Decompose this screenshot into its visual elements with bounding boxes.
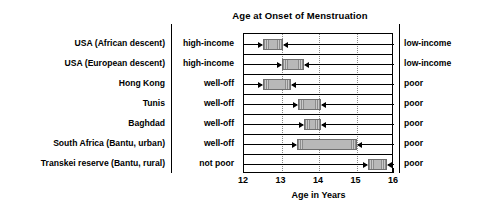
- category-label-0: USA (African descent): [0, 33, 171, 53]
- bar-hatch-left: [264, 40, 269, 49]
- x-tick-label-15: 15: [350, 175, 360, 185]
- chart-title: Age at Onset of Menstruation: [205, 10, 395, 21]
- bar-hatch-right: [315, 100, 320, 109]
- column-divider-left: [171, 24, 172, 173]
- row-separator-5: [244, 134, 392, 135]
- bar-hatch-left: [283, 60, 288, 69]
- arrowhead-right: [363, 162, 368, 168]
- bar-hatch-left: [369, 160, 374, 169]
- arrowhead-right: [299, 122, 304, 128]
- arrow-left-5: [244, 144, 296, 145]
- arrow-left-4: [244, 124, 303, 125]
- left-group-label-4: well-off: [176, 113, 238, 133]
- bar-4: [304, 119, 321, 130]
- category-label-3: Tunis: [0, 93, 171, 113]
- left-group-label-3: well-off: [176, 93, 238, 113]
- bar-2: [263, 79, 291, 90]
- left-group-label-column: high-incomehigh-incomewell-offwell-offwe…: [176, 33, 238, 173]
- bar-hatch-left: [299, 100, 304, 109]
- arrowhead-right: [292, 142, 297, 148]
- arrowhead-left: [321, 102, 326, 108]
- category-label-column: USA (African descent)USA (European desce…: [0, 33, 171, 173]
- category-label-6: Transkei reserve (Bantu, rural): [0, 153, 171, 173]
- x-tick-label-16: 16: [388, 175, 398, 185]
- category-label-2: Hong Kong: [0, 73, 171, 93]
- plot-area: [243, 33, 393, 173]
- arrow-left-2: [244, 84, 262, 85]
- row-separator-1: [244, 54, 392, 55]
- x-axis-label: Age in Years: [243, 190, 394, 200]
- x-tick-label-12: 12: [238, 175, 248, 185]
- bar-hatch-right: [315, 120, 320, 129]
- bar-hatch-left: [264, 80, 269, 89]
- arrowhead-right: [293, 102, 298, 108]
- row-separator-2: [244, 74, 392, 75]
- x-tick-label-14: 14: [313, 175, 323, 185]
- category-label-1: USA (European descent): [0, 53, 171, 73]
- right-group-label-2: poor: [404, 73, 488, 93]
- arrowhead-left: [321, 122, 326, 128]
- arrow-right-4: [322, 124, 394, 125]
- left-group-label-1: high-income: [176, 53, 238, 73]
- arrow-left-0: [244, 44, 262, 45]
- bar-hatch-right: [381, 160, 386, 169]
- arrowhead-right: [258, 42, 263, 48]
- x-axis-ticks: 1213141516: [0, 175, 488, 189]
- arrow-left-1: [244, 64, 281, 65]
- right-group-label-1: low-income: [404, 53, 488, 73]
- right-group-label-3: poor: [404, 93, 488, 113]
- arrow-left-6: [244, 164, 367, 165]
- bar-hatch-right: [277, 40, 282, 49]
- row-separator-4: [244, 114, 392, 115]
- bar-5: [297, 139, 357, 150]
- chart-container: Age at Onset of Menstruation USA (Africa…: [0, 0, 488, 210]
- arrowhead-left: [357, 142, 362, 148]
- x-tick-label-13: 13: [275, 175, 285, 185]
- x-axis-line: [243, 172, 394, 173]
- arrow-right-0: [284, 44, 394, 45]
- arrow-right-2: [292, 84, 394, 85]
- row-separator-6: [244, 154, 392, 155]
- arrowhead-left: [283, 42, 288, 48]
- category-label-5: South Africa (Bantu, urban): [0, 133, 171, 153]
- right-group-label-5: poor: [404, 133, 488, 153]
- bar-hatch-left: [298, 140, 303, 149]
- category-label-4: Baghdad: [0, 113, 171, 133]
- arrow-left-3: [244, 104, 297, 105]
- x-axis-right-cap: [393, 168, 394, 173]
- arrow-right-6: [388, 164, 395, 165]
- left-group-label-0: high-income: [176, 33, 238, 53]
- arrow-right-3: [322, 104, 394, 105]
- right-group-label-0: low-income: [404, 33, 488, 53]
- arrowhead-right: [258, 82, 263, 88]
- bar-0: [263, 39, 284, 50]
- bar-1: [282, 59, 305, 70]
- bar-hatch-right: [285, 80, 290, 89]
- bar-hatch-left: [305, 120, 310, 129]
- arrowhead-right: [277, 62, 282, 68]
- right-group-label-4: poor: [404, 113, 488, 133]
- x-axis-left-cap: [243, 168, 244, 173]
- bar-3: [298, 99, 321, 110]
- left-group-label-6: not poor: [176, 153, 238, 173]
- bar-hatch-right: [351, 140, 356, 149]
- bar-hatch-right: [298, 60, 303, 69]
- row-separator-3: [244, 94, 392, 95]
- left-group-label-2: well-off: [176, 73, 238, 93]
- arrowhead-left: [387, 162, 392, 168]
- arrow-right-1: [305, 64, 394, 65]
- arrow-right-5: [358, 144, 395, 145]
- right-group-label-6: poor: [404, 153, 488, 173]
- column-divider-right: [399, 24, 400, 173]
- arrowhead-left: [304, 62, 309, 68]
- right-group-label-column: low-incomelow-incomepoorpoorpoorpoorpoor: [404, 33, 488, 173]
- bar-6: [368, 159, 387, 170]
- left-group-label-5: well-off: [176, 133, 238, 153]
- arrowhead-left: [291, 82, 296, 88]
